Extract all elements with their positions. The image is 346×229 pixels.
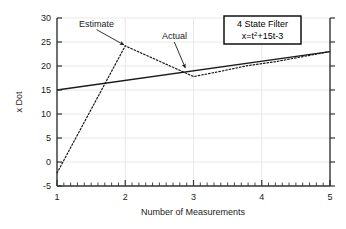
y-axis-ticks-right bbox=[330, 18, 335, 186]
y-tick-label: 5 bbox=[46, 133, 51, 143]
legend-formula: x=t2+15t-3 bbox=[242, 31, 283, 42]
y-tick-label: -5 bbox=[43, 181, 51, 191]
x-tick-label: 5 bbox=[327, 192, 332, 202]
x-tick-label: 4 bbox=[259, 192, 264, 202]
y-tick-label: 25 bbox=[41, 37, 51, 47]
y-tick-label: 20 bbox=[41, 61, 51, 71]
y-axis-tick-labels: -5051015202530 bbox=[41, 13, 51, 191]
legend-formula-suffix: +15t-3 bbox=[257, 31, 283, 41]
y-tick-label: 30 bbox=[41, 13, 51, 23]
annotation-label-estimate: Estimate bbox=[79, 19, 114, 29]
chart-figure: -5051015202530 12345 x Dot Number of Mea… bbox=[0, 0, 346, 229]
x-tick-label: 2 bbox=[123, 192, 128, 202]
legend-title: 4 State Filter bbox=[237, 19, 288, 29]
y-tick-label: 10 bbox=[41, 109, 51, 119]
y-tick-label: 15 bbox=[41, 85, 51, 95]
y-axis-title: x Dot bbox=[14, 91, 24, 113]
annotation-label-actual: Actual bbox=[162, 31, 187, 41]
x-tick-label: 3 bbox=[191, 192, 196, 202]
y-tick-label: 0 bbox=[46, 157, 51, 167]
legend-box: 4 State Filter x=t2+15t-3 bbox=[224, 16, 301, 44]
x-tick-label: 1 bbox=[54, 192, 59, 202]
legend-formula-prefix: x=t bbox=[242, 31, 255, 41]
chart-svg: -5051015202530 12345 x Dot Number of Mea… bbox=[0, 0, 346, 229]
x-axis-title: Number of Measurements bbox=[141, 207, 246, 217]
x-axis-tick-labels: 12345 bbox=[54, 192, 332, 202]
